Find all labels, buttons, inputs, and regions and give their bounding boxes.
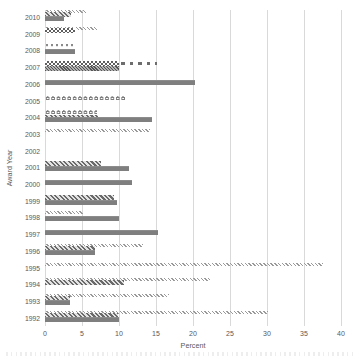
bar-2004-solid — [45, 117, 152, 122]
bar-1998-zigzag-light — [45, 211, 83, 214]
gridline-x-40 — [341, 10, 342, 326]
bar-2008-solid — [45, 49, 75, 54]
y-tick-label-1992: 1992 — [6, 314, 40, 321]
x-tick-label-10: 10 — [115, 330, 123, 337]
bar-1993-solid — [45, 300, 70, 305]
bar-1998-solid — [45, 216, 119, 221]
y-tick-label-2000: 2000 — [6, 181, 40, 188]
bar-2007-hatch — [45, 66, 119, 71]
y-tick-label-2008: 2008 — [6, 47, 40, 54]
y-tick-label-2007: 2007 — [6, 64, 40, 71]
x-tick-label-25: 25 — [226, 330, 234, 337]
y-tick-label-2009: 2009 — [6, 30, 40, 37]
y-tick-label-1998: 1998 — [6, 214, 40, 221]
y-tick-label-2005: 2005 — [6, 97, 40, 104]
bar-1999-solid — [45, 200, 117, 205]
bar-1992-solid — [45, 317, 119, 322]
y-tick-label-2004: 2004 — [6, 114, 40, 121]
y-tick-label-1993: 1993 — [6, 297, 40, 304]
x-tick-label-5: 5 — [80, 330, 84, 337]
gridline-x-30 — [267, 10, 268, 326]
cropped-caption-remnant — [6, 352, 356, 356]
bar-2008-wave — [45, 44, 75, 48]
bar-2005-chain — [45, 96, 125, 101]
x-axis-title: Percent — [181, 341, 206, 350]
bar-2000-solid — [45, 180, 132, 185]
x-tick-label-20: 20 — [189, 330, 197, 337]
y-tick-label-1997: 1997 — [6, 231, 40, 238]
y-tick-label-2001: 2001 — [6, 164, 40, 171]
bar-2010-solid — [45, 16, 64, 21]
bar-2006-solid — [45, 80, 195, 85]
gridline-x-25 — [230, 10, 231, 326]
y-tick-label-2003: 2003 — [6, 130, 40, 137]
x-tick-label-35: 35 — [300, 330, 308, 337]
bar-chart: Award Year Percent 051015202530354020102… — [0, 0, 363, 358]
y-tick-label-1996: 1996 — [6, 247, 40, 254]
bar-1997-solid — [45, 230, 158, 235]
y-tick-label-1995: 1995 — [6, 264, 40, 271]
x-tick-label-0: 0 — [43, 330, 47, 337]
bar-1996-solid — [45, 250, 95, 255]
bar-2001-solid — [45, 166, 129, 171]
bar-2003-zigzag-light — [45, 129, 150, 132]
x-tick-label-30: 30 — [263, 330, 271, 337]
y-tick-label-2006: 2006 — [6, 80, 40, 87]
y-tick-label-2002: 2002 — [6, 147, 40, 154]
y-tick-label-1999: 1999 — [6, 197, 40, 204]
x-tick-label-15: 15 — [152, 330, 160, 337]
bar-1995-zigzag-light — [45, 263, 323, 266]
gridline-x-35 — [304, 10, 305, 326]
bar-2009-checker — [45, 28, 75, 33]
x-tick-label-40: 40 — [337, 330, 345, 337]
bar-1994-zigzag-dark — [45, 280, 124, 285]
y-tick-label-2010: 2010 — [6, 14, 40, 21]
y-tick-label-1994: 1994 — [6, 281, 40, 288]
